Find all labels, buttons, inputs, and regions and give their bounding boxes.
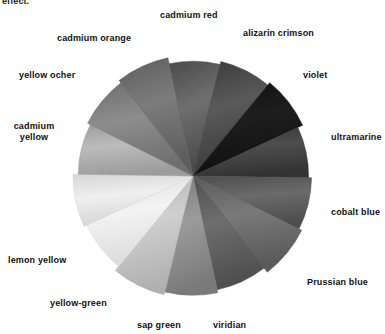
wheel-label-violet: violet: [303, 70, 327, 81]
figure-canvas: effect. cadmium redalizarin crimsoncadmi…: [0, 0, 385, 334]
wheel-label-alizarin-crimson: alizarin crimson: [243, 28, 314, 39]
wheel-label-cadmium-yellow: cadmium yellow: [4, 121, 64, 143]
wheel-label-cadmium-red: cadmium red: [160, 10, 218, 21]
wheel-label-yellow-green: yellow-green: [50, 298, 107, 309]
wheel-label-ultramarine: ultramarine: [331, 132, 382, 143]
wheel-label-yellow-ocher: yellow ocher: [19, 70, 75, 81]
wheel-label-lemon-yellow: lemon yellow: [8, 255, 66, 266]
wheel-label-cobalt-blue: cobalt blue: [331, 207, 380, 218]
color-wheel-figure: cadmium redalizarin crimsoncadmium orang…: [0, 0, 385, 334]
wheel-label-viridian: viridian: [213, 320, 246, 331]
sector-group: [73, 58, 312, 295]
wheel-label-sap-green: sap green: [137, 320, 181, 331]
wheel-label-prussian-blue: Prussian blue: [307, 277, 368, 288]
wheel-label-cadmium-orange: cadmium orange: [57, 33, 131, 44]
